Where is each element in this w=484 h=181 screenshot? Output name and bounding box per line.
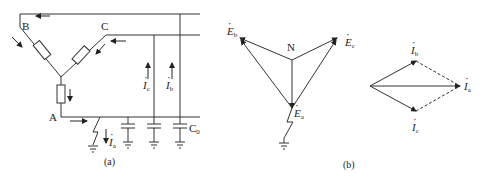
- arrow-c-branch: [96, 44, 105, 54]
- emf-eb-label: Eb: [227, 26, 237, 39]
- phasor-ib: [370, 61, 416, 86]
- current-ic-label: Ic: [143, 80, 150, 93]
- capacitor-a: [121, 124, 135, 148]
- figure-canvas: B C A Ic Ib Ia C0 (a) N Eb Ec Ea Ib Ia I…: [0, 0, 484, 181]
- node-a-label: A: [49, 112, 57, 123]
- node-b-label: B: [22, 21, 29, 32]
- neutral-ground: [279, 108, 293, 149]
- emf-ea-label: Ea: [294, 108, 304, 121]
- phasor-ic-label: Ic: [412, 122, 419, 135]
- phasor-ib-label: Ib: [411, 45, 418, 58]
- phasor-ic: [370, 86, 416, 111]
- emf-ec-label: Ec: [345, 37, 355, 50]
- current-ia-label: Ia: [109, 137, 116, 150]
- node-c-label: C: [101, 21, 108, 32]
- phase-b-line: [20, 14, 200, 77]
- circuit-and-phasor-diagram: [0, 0, 484, 181]
- phasor-ia-label: Ia: [464, 81, 471, 94]
- resistor-b: [33, 40, 51, 59]
- capacitance-c0-label: C0: [189, 123, 200, 136]
- arrow-b-branch: [12, 37, 22, 47]
- ground-fault-symbol: [88, 117, 100, 152]
- resistor-a: [57, 85, 65, 103]
- phasor-eb-from-a: [241, 40, 292, 108]
- capacitor-c: [147, 124, 161, 148]
- resistor-c: [72, 46, 90, 65]
- phasor-ec-from-a: [292, 40, 336, 108]
- neutral-n-label: N: [287, 42, 295, 53]
- capacitor-b: [173, 124, 187, 148]
- caption-b: (b): [343, 160, 355, 170]
- current-ib-label: Ib: [166, 80, 173, 93]
- caption-a: (a): [104, 157, 115, 167]
